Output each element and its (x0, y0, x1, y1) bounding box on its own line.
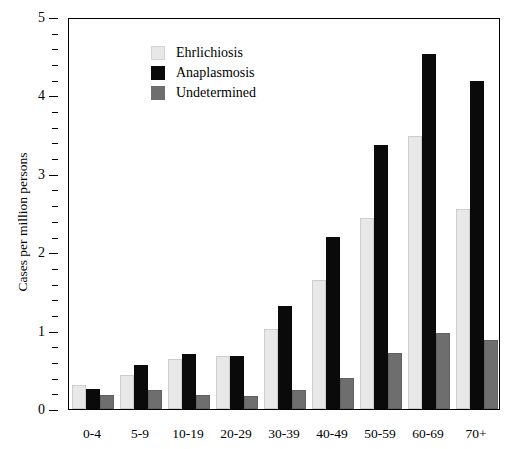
x-tick-label-50-59: 50-59 (364, 426, 396, 442)
bar-ehrlichiosis-5-9 (120, 375, 134, 409)
legend-item-anaplasmosis: Anaplasmosis (151, 63, 256, 82)
bar-ehrlichiosis-20-29 (216, 356, 230, 409)
bar-chart: Cases per million persons 012345 Ehrlich… (0, 0, 510, 449)
bar-anaplasmosis-40-49 (326, 237, 340, 409)
y-tick-label: 3 (38, 168, 45, 182)
y-tick-label: 1 (38, 325, 45, 339)
bar-undetermined-20-29 (244, 396, 258, 409)
bar-undetermined-0-4 (100, 395, 114, 409)
bar-undetermined-5-9 (148, 390, 162, 409)
legend-label-undetermined: Undetermined (176, 86, 256, 100)
y-tick-minor (52, 112, 58, 113)
y-tick-minor (52, 65, 58, 66)
legend-label-anaplasmosis: Anaplasmosis (176, 66, 255, 80)
y-tick-minor (52, 222, 58, 223)
plot-area: Ehrlichiosis Anaplasmosis Undetermined (68, 18, 500, 410)
legend-swatch-icon-ehrlichiosis (151, 46, 165, 60)
y-tick-major (49, 175, 58, 176)
x-tick-label-20-29: 20-29 (220, 426, 252, 442)
y-tick-minor (52, 81, 58, 82)
y-tick-minor (52, 285, 58, 286)
y-tick-minor (52, 379, 58, 380)
y-tick-minor (52, 363, 58, 364)
x-tick-label-70+: 70+ (465, 426, 486, 442)
y-tick-major (49, 410, 58, 411)
bar-undetermined-60-69 (436, 333, 450, 409)
x-tick-label-30-39: 30-39 (268, 426, 300, 442)
y-tick-minor (52, 159, 58, 160)
y-axis: Cases per million persons 012345 (0, 0, 68, 449)
y-tick-minor (52, 238, 58, 239)
x-tick-label-10-19: 10-19 (172, 426, 204, 442)
bar-ehrlichiosis-50-59 (360, 218, 374, 409)
bar-ehrlichiosis-0-4 (72, 385, 86, 409)
x-tick-label-60-69: 60-69 (412, 426, 444, 442)
y-tick-major (49, 18, 58, 19)
y-tick-minor (52, 49, 58, 50)
bar-ehrlichiosis-70+ (456, 209, 470, 409)
y-tick-major (49, 96, 58, 97)
y-tick-minor (52, 190, 58, 191)
bar-undetermined-10-19 (196, 395, 210, 409)
legend: Ehrlichiosis Anaplasmosis Undetermined (151, 43, 256, 103)
bar-undetermined-40-49 (340, 378, 354, 409)
bar-undetermined-50-59 (388, 353, 402, 409)
legend-swatch-icon-anaplasmosis (151, 66, 165, 80)
legend-swatch-icon-undetermined (151, 86, 165, 100)
y-tick-major (49, 253, 58, 254)
y-tick-minor (52, 128, 58, 129)
y-tick-minor (52, 269, 58, 270)
y-axis-title: Cases per million persons (15, 107, 31, 337)
bar-ehrlichiosis-40-49 (312, 280, 326, 409)
legend-item-undetermined: Undetermined (151, 83, 256, 102)
bar-anaplasmosis-50-59 (374, 145, 388, 409)
y-tick-minor (52, 206, 58, 207)
bar-ehrlichiosis-60-69 (408, 136, 422, 409)
y-tick-minor (52, 316, 58, 317)
legend-item-ehrlichiosis: Ehrlichiosis (151, 43, 256, 62)
y-tick-label: 0 (38, 403, 45, 417)
x-tick-label-0-4: 0-4 (83, 426, 101, 442)
bar-anaplasmosis-10-19 (182, 354, 196, 409)
bar-anaplasmosis-30-39 (278, 306, 292, 409)
y-tick-label: 2 (38, 246, 45, 260)
y-tick-minor (52, 143, 58, 144)
y-tick-major (49, 332, 58, 333)
x-axis: 0-45-910-1920-2930-3940-4950-5960-6970+ (68, 412, 500, 449)
legend-label-ehrlichiosis: Ehrlichiosis (176, 46, 243, 60)
bar-ehrlichiosis-10-19 (168, 359, 182, 409)
bars-layer (69, 19, 499, 409)
bar-anaplasmosis-0-4 (86, 389, 100, 409)
bar-ehrlichiosis-30-39 (264, 329, 278, 409)
y-tick-minor (52, 300, 58, 301)
bar-anaplasmosis-70+ (470, 81, 484, 409)
y-tick-label: 5 (38, 11, 45, 25)
bar-anaplasmosis-20-29 (230, 356, 244, 409)
bar-undetermined-30-39 (292, 390, 306, 409)
y-tick-minor (52, 394, 58, 395)
x-tick-label-5-9: 5-9 (131, 426, 149, 442)
x-tick-label-40-49: 40-49 (316, 426, 348, 442)
y-tick-minor (52, 34, 58, 35)
y-tick-label: 4 (38, 89, 45, 103)
bar-undetermined-70+ (484, 340, 498, 409)
y-tick-minor (52, 347, 58, 348)
bar-anaplasmosis-5-9 (134, 365, 148, 409)
bar-anaplasmosis-60-69 (422, 54, 436, 409)
